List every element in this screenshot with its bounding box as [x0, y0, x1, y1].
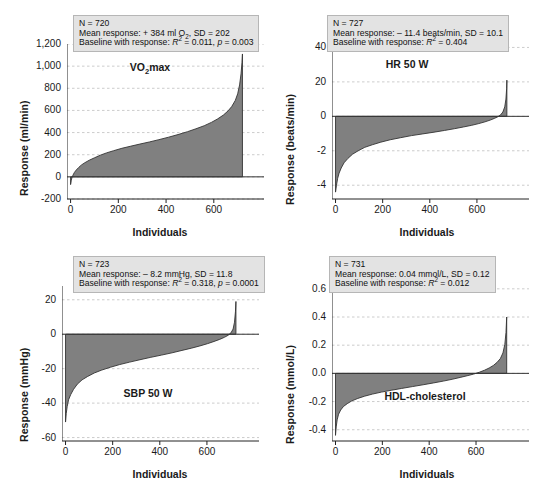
y-tick-label: 0: [284, 111, 326, 121]
x-tick-label: 0: [51, 205, 91, 215]
response-area: [66, 302, 236, 423]
y-tick-label: -20: [14, 364, 56, 374]
response-area: [336, 317, 507, 435]
plot-area-sbp50w: [62, 286, 261, 451]
x-tick-label: 600: [194, 205, 234, 215]
y-tick-label: -2: [284, 146, 326, 156]
y-tick-label: 20: [284, 77, 326, 87]
y-tick-label: 600: [19, 105, 61, 115]
y-tick-label: 1,000: [19, 61, 61, 71]
x-tick-label: 200: [98, 205, 138, 215]
x-tick-label: 200: [93, 447, 133, 457]
y-tick-label: -4: [284, 180, 326, 190]
y-tick-label: 0.4: [284, 312, 326, 322]
panel-hr50w: Response (beats/min) Individuals N = 727…: [277, 0, 554, 243]
stats-baseline: Baseline with response: R2 = 0.011, p = …: [79, 38, 253, 48]
plot-area-hdl: [332, 286, 531, 451]
panel-hdl-cholesterol: Response (mmol/L) Individuals N = 731 Me…: [277, 242, 554, 485]
y-tick-label: 0: [14, 329, 56, 339]
x-tick-label: 0: [46, 447, 86, 457]
panel-sbp50w: Response (mmHg) Individuals N = 723 Mean…: [0, 242, 277, 485]
x-tick-label: 600: [187, 447, 227, 457]
y-tick-label: 800: [19, 83, 61, 93]
x-tick-label: 400: [146, 205, 186, 215]
y-tick-label: -0.4: [284, 425, 326, 435]
y-tick-label: 0.6: [284, 284, 326, 294]
y-tick-label: 1,200: [19, 39, 61, 49]
y-tick-label: -40: [14, 398, 56, 408]
y-tick-label: -0.2: [284, 397, 326, 407]
stats-box-hdl: N = 731 Mean response: 0.04 mmol/L, SD =…: [329, 256, 496, 293]
response-area: [71, 54, 243, 185]
x-tick-label: 400: [409, 447, 449, 457]
x-axis-label: Individuals: [327, 226, 527, 238]
y-tick-label: 0: [19, 172, 61, 182]
y-tick-label: 40: [284, 42, 326, 52]
response-area: [336, 80, 507, 192]
stats-baseline: Baseline with response: R2 = 0.318, p = …: [79, 279, 259, 289]
x-tick-label: 200: [362, 447, 402, 457]
x-tick-label: 0: [316, 205, 356, 215]
stats-baseline: Baseline with response: R2 = 0.012: [335, 279, 490, 289]
stats-box-hr50w: N = 727 Mean response: – 11.4 beats/min,…: [327, 15, 509, 52]
y-tick-label: -200: [19, 194, 61, 204]
y-tick-label: 0.0: [284, 368, 326, 378]
x-tick-label: 400: [410, 205, 450, 215]
x-tick-label: 200: [363, 205, 403, 215]
response-distribution-figure: Response (ml/min) Individuals N = 720 Me…: [0, 0, 554, 485]
y-tick-label: 400: [19, 128, 61, 138]
stats-box-vo2max: N = 720 Mean response: + 384 ml O2, SD =…: [73, 15, 259, 52]
y-tick-label: -60: [14, 433, 56, 443]
x-tick-label: 600: [457, 205, 497, 215]
chart-svg-sbp50w: [62, 286, 261, 451]
x-axis-label: Individuals: [60, 226, 260, 238]
x-tick-label: 600: [456, 447, 496, 457]
stats-box-sbp50w: N = 723 Mean response: – 8.2 mmHg, SD = …: [73, 256, 265, 293]
x-tick-label: 400: [140, 447, 180, 457]
x-tick-label: 0: [316, 447, 356, 457]
x-axis-label: Individuals: [60, 468, 260, 480]
chart-svg-hdl: [332, 286, 531, 451]
y-tick-label: 200: [19, 150, 61, 160]
plot-title-hr50w: HR 50 W: [357, 58, 457, 70]
y-tick-label: 0.2: [284, 340, 326, 350]
plot-title-vo2max: VO2max: [100, 61, 200, 73]
y-tick-label: 20: [14, 295, 56, 305]
plot-title-sbp50w: SBP 50 W: [98, 387, 198, 399]
panel-vo2max: Response (ml/min) Individuals N = 720 Me…: [0, 0, 277, 243]
y-axis-label: Response (mmHg): [18, 348, 30, 442]
plot-title-hdl: HDL-cholesterol: [365, 390, 485, 402]
stats-baseline: Baseline with response: R2 = 0.404: [333, 38, 503, 48]
x-axis-label: Individuals: [327, 468, 527, 480]
